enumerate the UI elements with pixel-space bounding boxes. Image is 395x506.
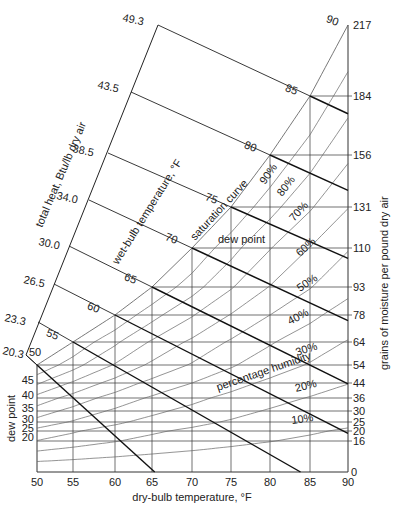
dewpoint-tick-label: 50 — [29, 346, 41, 358]
total-heat-tick-label: 26.5 — [23, 273, 46, 289]
wetbulb-tick-label: 60 — [86, 299, 102, 314]
x-tick-label: 60 — [109, 476, 121, 488]
x-tick-label: 80 — [264, 476, 276, 488]
right-tick-label: 78 — [353, 309, 365, 321]
wetbulb-tick-label: 65 — [123, 270, 139, 285]
right-tick-label: 16 — [353, 435, 365, 447]
right-tick-label: 0 — [351, 466, 357, 478]
dewpoint-tick-label: 45 — [22, 374, 34, 386]
dew-point-label: dew point — [218, 233, 265, 245]
dewpoint-tick-label: 20 — [22, 431, 34, 443]
right-tick-label: 93 — [353, 281, 365, 293]
wetbulb-tick-label: 85 — [284, 81, 300, 96]
wetbulb-tick-label: 90 — [325, 12, 341, 27]
x-tick-label: 75 — [225, 476, 237, 488]
right-axis-title: grains of moisture per pound dry air — [378, 196, 390, 370]
total-heat-tick-label: 49.3 — [122, 11, 145, 27]
wetbulb-title: wet-bulb temperature, °F — [109, 157, 184, 267]
x-axis-title: dry-bulb temperature, °F — [132, 491, 252, 503]
right-tick-label: 44 — [353, 377, 365, 389]
humidity-percent-label: 90% — [257, 161, 280, 186]
humidity-percent-label: 60% — [293, 235, 318, 259]
dewpoint-tick-label: 40 — [22, 389, 34, 401]
humidity-percent-label: 40% — [285, 306, 310, 327]
wetbulb-tick-label: 80 — [243, 138, 259, 153]
total-heat-title: total heat, Btu/lb dry air — [33, 120, 88, 229]
wetbulb-tick-label: 55 — [45, 326, 61, 341]
total-heat-tick-label: 30.0 — [38, 235, 61, 251]
total-heat-tick-label: 20.3 — [2, 344, 25, 360]
right-tick-label: 36 — [353, 392, 365, 404]
right-tick-label: 64 — [353, 336, 365, 348]
dewpoint-axis-title: dew point — [5, 395, 17, 442]
x-tick-label: 70 — [186, 476, 198, 488]
total-heat-tick-label: 43.5 — [97, 78, 120, 94]
right-tick-label: 217 — [353, 19, 371, 31]
right-tick-label: 54 — [353, 359, 365, 371]
humidity-percent-label: 70% — [287, 199, 311, 224]
humidity-percent-label: 20% — [294, 377, 318, 394]
x-tick-label: 65 — [146, 476, 158, 488]
axis-labels: 505560657075808590dry-bulb temperature, … — [2, 11, 390, 503]
right-tick-label: 184 — [353, 90, 371, 102]
x-tick-label: 55 — [67, 476, 79, 488]
humidity-percent-label: 50% — [294, 271, 319, 293]
psychrometric-chart: 505560657075808590dry-bulb temperature, … — [0, 0, 395, 506]
x-tick-label: 50 — [31, 476, 43, 488]
x-tick-label: 85 — [304, 476, 316, 488]
humidity-percent-label: 10% — [291, 411, 315, 426]
right-tick-label: 110 — [353, 242, 371, 254]
right-tick-label: 156 — [353, 149, 371, 161]
wetbulb-tick-label: 70 — [164, 230, 180, 245]
total-heat-tick-label: 23.3 — [4, 311, 27, 327]
right-tick-label: 131 — [353, 201, 371, 213]
